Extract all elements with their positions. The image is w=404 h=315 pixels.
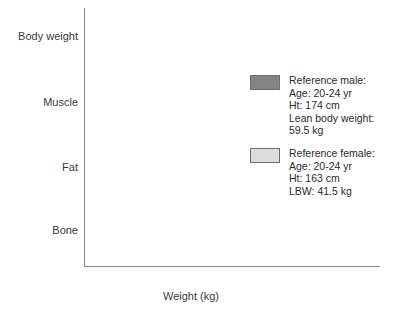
x-axis-title: Weight (kg) [0, 290, 404, 302]
x-axis-title-text: Weight (kg) [163, 290, 219, 302]
legend-swatch-female-icon [250, 148, 280, 163]
legend-entry-male: Reference male: Age: 20-24 yr Ht: 174 cm… [250, 74, 402, 137]
category-label-bone: Bone [4, 224, 78, 236]
category-label-body-weight: Body weight [4, 30, 78, 42]
legend-label-female: Reference female: Age: 20-24 yr Ht: 163 … [289, 147, 375, 197]
x-axis-line [84, 266, 380, 267]
category-label-muscle: Muscle [4, 96, 78, 108]
horizontal-bar-chart: Body weight Muscle Fat Bone Weight (kg) … [0, 0, 404, 315]
legend-entry-female: Reference female: Age: 20-24 yr Ht: 163 … [250, 147, 402, 197]
legend: Reference male: Age: 20-24 yr Ht: 174 cm… [250, 74, 402, 207]
legend-swatch-male-icon [250, 75, 280, 90]
legend-label-male: Reference male: Age: 20-24 yr Ht: 174 cm… [289, 74, 374, 137]
category-label-fat: Fat [4, 161, 78, 173]
